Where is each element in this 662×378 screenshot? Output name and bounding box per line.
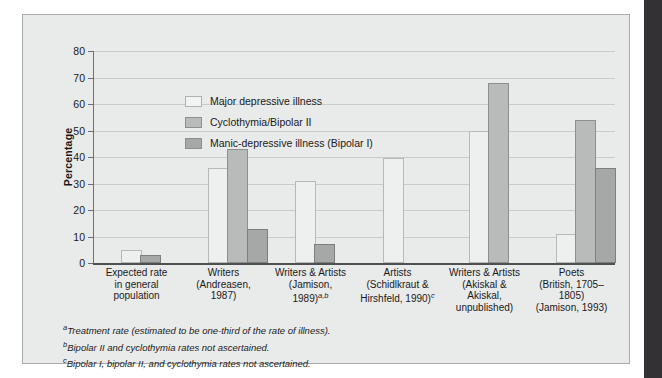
x-label-line: 1989)a,b — [267, 290, 354, 305]
bar-major — [121, 250, 142, 263]
legend-swatch-cyclothymia-icon — [185, 117, 202, 128]
x-label-line: Writers & Artists — [441, 267, 528, 279]
y-tick-label: 0 — [59, 257, 85, 269]
chart-legend: Major depressive illness Cyclothymia/Bip… — [185, 95, 373, 158]
footnote-text: Bipolar II and cyclothymia rates not asc… — [67, 342, 269, 353]
legend-swatch-manic-icon — [185, 138, 202, 149]
y-tick-mark — [88, 210, 93, 211]
bar-cyclo — [488, 83, 509, 263]
legend-label-manic: Manic-depressive illness (Bipolar I) — [210, 137, 373, 149]
x-label-line: Writers — [180, 267, 267, 279]
plot-area: Major depressive illness Cyclothymia/Bip… — [93, 51, 615, 263]
x-label-line: Expected rate — [93, 267, 180, 279]
x-axis-label: Poets(British, 1705–1805)(Jamison, 1993) — [528, 267, 615, 313]
y-tick-mark — [88, 237, 93, 238]
bar-manic — [595, 168, 616, 263]
footnote: bBipolar II and cyclothymia rates not as… — [63, 338, 623, 355]
bar-major — [556, 234, 577, 263]
x-axis-line — [93, 263, 615, 265]
x-label-line: Hirshfeld, 1990)c — [354, 290, 441, 305]
bar-group — [441, 51, 528, 263]
legend-item-cyclothymia: Cyclothymia/Bipolar II — [185, 116, 373, 128]
bar-major — [383, 158, 404, 263]
legend-swatch-major-icon — [185, 96, 202, 107]
x-label-line: Writers & Artists — [267, 267, 354, 279]
bar-manic — [247, 229, 268, 263]
bar-group — [528, 51, 615, 263]
y-tick-label: 70 — [59, 72, 85, 84]
figure-page: Percentage Major depressive illness Cycl… — [0, 0, 662, 378]
bar-cyclo — [575, 120, 596, 263]
x-label-line: (Jamison, — [267, 279, 354, 291]
legend-item-major: Major depressive illness — [185, 95, 373, 107]
y-tick-label: 30 — [59, 178, 85, 190]
bar-major — [295, 181, 316, 263]
y-tick-mark — [88, 104, 93, 105]
legend-item-manic: Manic-depressive illness (Bipolar I) — [185, 137, 373, 149]
y-tick-label: 50 — [59, 125, 85, 137]
y-tick-label: 40 — [59, 151, 85, 163]
y-tick-mark — [88, 131, 93, 132]
x-label-line: (Akiskal & — [441, 279, 528, 291]
footnotes: aTreatment rate (estimated to be one-thi… — [63, 321, 623, 371]
bar-major — [469, 131, 490, 264]
x-label-line: unpublished) — [441, 302, 528, 314]
bar-manic — [140, 255, 161, 263]
bar-major — [208, 168, 229, 263]
y-tick-mark — [88, 184, 93, 185]
footnote: aTreatment rate (estimated to be one-thi… — [63, 321, 623, 338]
y-tick-mark — [88, 157, 93, 158]
bar-manic — [314, 244, 335, 263]
x-axis-label: Expected ratein generalpopulation — [93, 267, 180, 302]
y-tick-label: 80 — [59, 45, 85, 57]
x-axis-labels: Expected ratein generalpopulationWriters… — [93, 267, 615, 319]
x-label-footnote-marker: c — [431, 291, 435, 300]
legend-label-major: Major depressive illness — [210, 95, 322, 107]
x-label-line: (British, 1705–1805) — [528, 279, 615, 302]
page-edge-band — [644, 0, 662, 378]
y-tick-label: 60 — [59, 98, 85, 110]
x-label-line: population — [93, 290, 180, 302]
footnote: cBipolar I, bipolar II, and cyclothymia … — [63, 354, 623, 371]
y-tick-label: 10 — [59, 231, 85, 243]
footnote-text: Bipolar I, bipolar II, and cyclothymia r… — [67, 358, 311, 369]
chart-panel: Percentage Major depressive illness Cycl… — [22, 14, 630, 364]
y-tick-mark — [88, 51, 93, 52]
x-label-line: (Andreasen, — [180, 279, 267, 291]
footnote-text: Treatment rate (estimated to be one-thir… — [67, 325, 330, 336]
x-axis-label: Writers & Artists(Jamison,1989)a,b — [267, 267, 354, 305]
x-label-line: Poets — [528, 267, 615, 279]
page-edge-gap — [640, 0, 644, 378]
legend-label-cyclothymia: Cyclothymia/Bipolar II — [210, 116, 312, 128]
x-label-line: 1987) — [180, 290, 267, 302]
x-label-line: (Schidlkraut & — [354, 279, 441, 291]
y-tick-mark — [88, 263, 93, 264]
x-axis-label: Writers(Andreasen,1987) — [180, 267, 267, 302]
x-label-line: Artists — [354, 267, 441, 279]
y-tick-mark — [88, 78, 93, 79]
x-label-line: Akiskal, — [441, 290, 528, 302]
x-axis-label: Artists(Schidlkraut &Hirshfeld, 1990)c — [354, 267, 441, 305]
x-label-line: in general — [93, 279, 180, 291]
bar-group — [93, 51, 180, 263]
x-axis-label: Writers & Artists(Akiskal &Akiskal,unpub… — [441, 267, 528, 313]
bar-cyclo — [227, 149, 248, 263]
x-label-footnote-marker: a,b — [318, 291, 328, 300]
x-label-line: (Jamison, 1993) — [528, 302, 615, 314]
y-tick-label: 20 — [59, 204, 85, 216]
